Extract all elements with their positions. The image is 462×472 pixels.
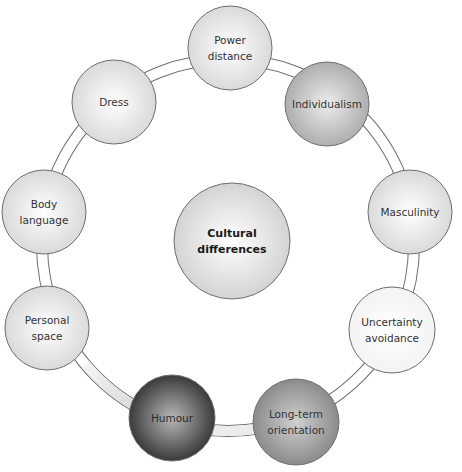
node-individualism: Individualism bbox=[285, 62, 369, 146]
center-label: differences bbox=[197, 243, 267, 256]
node-uncertainty-avoidance-label: avoidance bbox=[365, 332, 419, 344]
center-label: Cultural bbox=[207, 227, 256, 240]
cultural-differences-diagram: Culturaldifferences PowerdistanceIndivid… bbox=[0, 0, 462, 472]
node-long-term-orientation-label: orientation bbox=[267, 424, 324, 436]
node-masculinity-label: Masculinity bbox=[380, 206, 439, 218]
node-circle bbox=[5, 286, 89, 370]
node-circle bbox=[349, 287, 435, 373]
node-long-term-orientation: Long-termorientation bbox=[253, 379, 339, 465]
node-masculinity: Masculinity bbox=[368, 170, 452, 254]
node-personal-space: Personalspace bbox=[5, 286, 89, 370]
node-dress: Dress bbox=[72, 60, 156, 144]
node-uncertainty-avoidance-label: Uncertainty bbox=[361, 316, 422, 328]
node-circle bbox=[2, 170, 86, 254]
node-uncertainty-avoidance: Uncertaintyavoidance bbox=[349, 287, 435, 373]
node-body-language-label: Body bbox=[31, 198, 58, 210]
node-long-term-orientation-label: Long-term bbox=[269, 408, 323, 420]
node-humour-label: Humour bbox=[151, 412, 194, 424]
diagram-canvas: Culturaldifferences PowerdistanceIndivid… bbox=[0, 0, 462, 472]
node-power-distance-label: Power bbox=[214, 34, 246, 46]
node-dress-label: Dress bbox=[99, 96, 129, 108]
node-humour: Humour bbox=[129, 375, 215, 461]
center-node: Culturaldifferences bbox=[174, 183, 290, 299]
node-individualism-label: Individualism bbox=[292, 98, 362, 110]
node-personal-space-label: space bbox=[32, 330, 63, 342]
node-power-distance-label: distance bbox=[208, 50, 253, 62]
center-circle bbox=[174, 183, 290, 299]
node-body-language: Bodylanguage bbox=[2, 170, 86, 254]
node-body-language-label: language bbox=[20, 214, 69, 226]
node-power-distance: Powerdistance bbox=[188, 6, 272, 90]
node-circle bbox=[253, 379, 339, 465]
node-circle bbox=[188, 6, 272, 90]
node-personal-space-label: Personal bbox=[25, 314, 70, 326]
